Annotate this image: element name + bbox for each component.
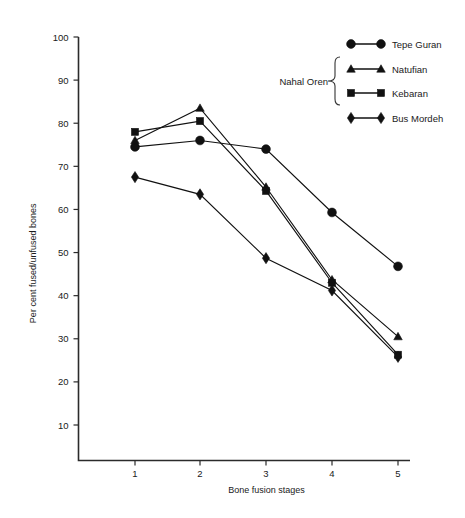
diamond-marker	[131, 172, 138, 183]
x-tick-label: 1	[132, 468, 137, 479]
square-icon	[348, 90, 355, 97]
series-bus-mordeh	[131, 172, 401, 363]
diamond-marker	[328, 285, 335, 296]
x-tick-label: 3	[263, 468, 268, 479]
y-tick-label: 80	[58, 118, 69, 129]
y-tick-label: 90	[58, 75, 69, 86]
circle-marker	[196, 136, 205, 145]
x-tick-label: 2	[197, 468, 202, 479]
series-line	[135, 177, 398, 357]
y-tick-label: 50	[58, 247, 69, 258]
diamond-icon	[347, 112, 354, 123]
circle-marker	[262, 145, 271, 154]
series-tepe-guran	[131, 136, 403, 271]
y-tick-label: 100	[53, 32, 69, 43]
circle-icon	[377, 40, 386, 49]
legend-group-label: Nahal Oren	[279, 76, 328, 87]
circle-icon	[347, 40, 356, 49]
y-axis-ticks: 102030405060708090100	[53, 32, 79, 431]
triangle-marker	[131, 136, 140, 143]
y-tick-label: 30	[58, 333, 69, 344]
legend-item-kebaran[interactable]: Kebaran	[348, 88, 428, 99]
legend-label: Kebaran	[392, 88, 428, 99]
y-axis-title-group: Per cent fused/unfused bones	[28, 203, 38, 323]
legend-item-tepe-guran[interactable]: Tepe Guran	[347, 39, 442, 50]
square-icon	[378, 90, 385, 97]
diamond-marker	[262, 253, 269, 264]
square-marker	[197, 118, 204, 125]
series-line	[135, 121, 398, 355]
x-axis-ticks: 12345	[132, 461, 400, 479]
legend-item-bus-mordeh[interactable]: Bus Mordeh	[347, 112, 443, 123]
y-tick-label: 60	[58, 204, 69, 215]
diamond-icon	[377, 112, 384, 123]
legend: Tepe GuranNatufianKebaranBus MordehNahal…	[279, 39, 443, 124]
series-line	[135, 140, 398, 266]
axis-lines	[79, 37, 411, 461]
line-chart: 10203040506070809010012345Bone fusion st…	[0, 0, 465, 518]
legend-item-natufian[interactable]: Natufian	[347, 64, 428, 75]
legend-label: Bus Mordeh	[392, 113, 443, 124]
circle-marker	[394, 262, 403, 271]
series-line	[135, 108, 398, 336]
chart-container: 10203040506070809010012345Bone fusion st…	[0, 0, 465, 518]
y-axis-title: Per cent fused/unfused bones	[28, 203, 38, 323]
legend-label: Tepe Guran	[392, 39, 442, 50]
triangle-marker	[196, 104, 205, 111]
circle-marker	[328, 208, 337, 217]
y-tick-label: 70	[58, 161, 69, 172]
axes	[79, 37, 411, 461]
x-axis-title: Bone fusion stages	[228, 485, 305, 495]
x-tick-label: 5	[395, 468, 400, 479]
legend-label: Natufian	[392, 64, 427, 75]
diamond-marker	[196, 189, 203, 200]
x-tick-label: 4	[329, 468, 334, 479]
y-tick-label: 40	[58, 290, 69, 301]
y-tick-label: 10	[58, 420, 69, 431]
square-marker	[263, 187, 270, 194]
series-natufian	[131, 104, 403, 340]
y-tick-label: 20	[58, 376, 69, 387]
legend-group-brace	[328, 57, 340, 105]
square-marker	[132, 128, 139, 135]
